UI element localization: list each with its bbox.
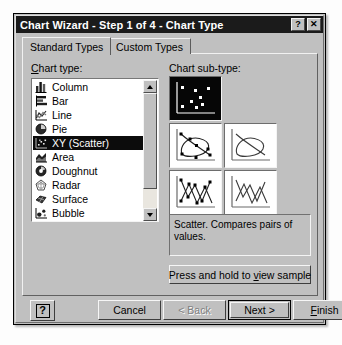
close-icon[interactable]: ✕	[307, 18, 321, 31]
subtype-scatter-smooth-lines-with-markers[interactable]	[169, 123, 222, 168]
list-item-label: Surface	[52, 193, 88, 205]
chart-type-list-items: Column Bar Line	[33, 80, 144, 221]
back-button: < Back	[163, 300, 226, 320]
list-item-label: Line	[52, 109, 72, 121]
list-item-label: Radar	[52, 179, 81, 191]
screen: Chart Wizard - Step 1 of 4 - Chart Type …	[0, 0, 342, 345]
question-mark-icon: ?	[36, 304, 50, 318]
list-item-label: Pie	[52, 123, 67, 135]
list-item-label: Doughnut	[52, 165, 98, 177]
list-item-bar[interactable]: Bar	[33, 94, 144, 108]
chart-type-scrollbar[interactable]	[143, 80, 157, 221]
scatter-chart-icon	[35, 137, 48, 149]
scroll-up-icon[interactable]	[143, 80, 157, 93]
bubble-chart-icon	[35, 207, 48, 219]
help-titlebar-icon[interactable]: ?	[291, 18, 305, 31]
chart-subtype-description: Scatter. Compares pairs of values.	[169, 214, 311, 256]
subtype-scatter-straight-lines-with-markers[interactable]	[169, 170, 222, 215]
subtype-scatter-smooth-lines-no-markers[interactable]	[224, 123, 277, 168]
back-button-label: < Back	[178, 304, 210, 316]
tab-page-standard-types: Chart type: Column Bar	[22, 53, 318, 296]
next-button-label: Next >	[230, 302, 289, 318]
subtype-row-1-spacer	[224, 76, 277, 121]
chart-subtype-label: Chart sub-type:	[169, 62, 241, 74]
sample-button-label: Press and hold to view sample	[169, 269, 311, 281]
finish-button-label: Finish	[310, 304, 338, 316]
subtype-row-3	[169, 170, 279, 217]
scroll-down-icon[interactable]	[143, 208, 157, 221]
column-chart-icon	[35, 81, 48, 93]
list-item-label: Column	[52, 81, 88, 93]
subtype-row-2	[169, 123, 279, 170]
list-item-surface[interactable]: Surface	[33, 192, 144, 206]
radar-chart-icon	[35, 179, 48, 191]
list-item-label: Bubble	[52, 207, 85, 219]
list-item-radar[interactable]: Radar	[33, 178, 144, 192]
title-bar-buttons: ? ✕	[291, 18, 321, 31]
line-chart-icon	[35, 109, 48, 121]
pie-chart-icon	[35, 123, 48, 135]
subtype-scatter-straight-lines-no-markers[interactable]	[224, 170, 277, 215]
doughnut-chart-icon	[35, 165, 48, 177]
list-item-area[interactable]: Area	[33, 150, 144, 164]
surface-chart-icon	[35, 193, 48, 205]
tab-standard-types[interactable]: Standard Types	[22, 37, 111, 55]
list-item-line[interactable]: Line	[33, 108, 144, 122]
tab-strip: Standard Types Custom Types	[22, 38, 318, 54]
list-item-xy-scatter[interactable]: XY (Scatter)	[33, 136, 144, 150]
chart-wizard-dialog: Chart Wizard - Step 1 of 4 - Chart Type …	[13, 13, 326, 325]
list-item-label: Bar	[52, 95, 68, 107]
cancel-button-label: Cancel	[113, 304, 146, 316]
list-item-pie[interactable]: Pie	[33, 122, 144, 136]
next-button[interactable]: Next >	[228, 300, 291, 320]
list-item-column[interactable]: Column	[33, 80, 144, 94]
title-bar[interactable]: Chart Wizard - Step 1 of 4 - Chart Type …	[16, 16, 323, 33]
dialog-button-bar: ? Cancel < Back Next > Finish	[22, 300, 318, 322]
list-item-doughnut[interactable]: Doughnut	[33, 164, 144, 178]
tab-custom-types[interactable]: Custom Types	[108, 38, 191, 54]
cancel-button[interactable]: Cancel	[98, 300, 161, 320]
scrollbar-thumb[interactable]	[143, 93, 157, 189]
finish-button[interactable]: Finish	[293, 300, 342, 320]
subtype-scatter-points-only[interactable]	[169, 76, 222, 121]
chart-subtype-grid	[169, 76, 279, 217]
dialog-title: Chart Wizard - Step 1 of 4 - Chart Type	[20, 19, 291, 31]
help-button[interactable]: ?	[30, 300, 55, 321]
area-chart-icon	[35, 151, 48, 163]
list-item-bubble[interactable]: Bubble	[33, 206, 144, 220]
subtype-row-1	[169, 76, 279, 123]
scrollbar-track[interactable]	[143, 93, 157, 208]
list-item-label: Area	[52, 151, 74, 163]
list-item-label: XY (Scatter)	[52, 137, 109, 149]
press-and-hold-to-view-sample-button[interactable]: Press and hold to view sample	[169, 265, 311, 284]
bar-chart-icon	[35, 95, 48, 107]
list-item-stock[interactable]: Stock	[33, 220, 144, 221]
chart-type-listbox[interactable]: Column Bar Line	[31, 78, 159, 222]
chart-type-label: Chart type:	[31, 62, 82, 74]
